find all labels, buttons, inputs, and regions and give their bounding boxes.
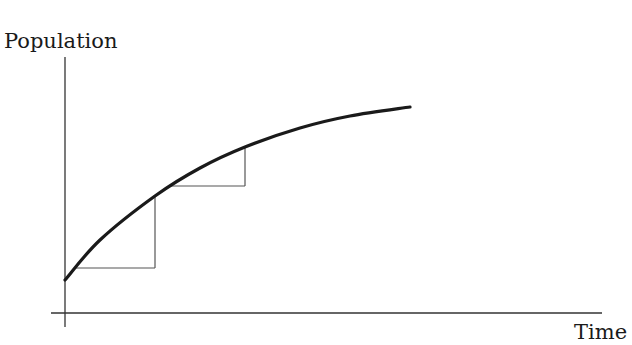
population-curve	[65, 107, 410, 280]
step-approximation	[76, 147, 245, 268]
chart-canvas	[0, 0, 632, 345]
